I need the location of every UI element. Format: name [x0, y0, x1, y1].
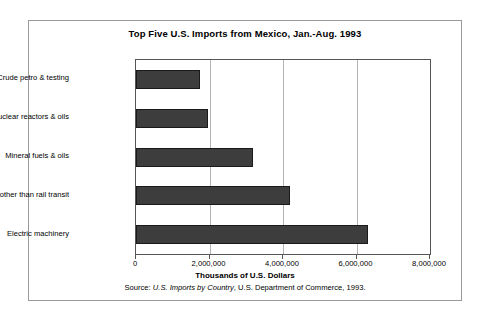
bar-fill [136, 109, 208, 128]
bar [136, 109, 208, 128]
source-suffix: , U.S. Department of Commerce, 1993. [234, 283, 366, 292]
x-tick-label: 8,000,000 [399, 259, 459, 268]
bar [136, 70, 200, 89]
plot-area [135, 59, 431, 255]
x-tick-label: 2,000,000 [179, 259, 239, 268]
bar [136, 225, 368, 244]
x-tick-mark [282, 255, 283, 259]
bar-fill [136, 148, 253, 167]
category-label: Nuclear reactors & oils [0, 112, 69, 122]
chart-title: Top Five U.S. Imports from Mexico, Jan.-… [29, 28, 461, 39]
source-publication-title: U.S. Imports by Country [153, 283, 234, 292]
category-label: Electric machinery [0, 229, 69, 239]
x-tick-mark [135, 255, 136, 259]
x-tick-label: 6,000,000 [326, 259, 386, 268]
bars-layer [136, 60, 430, 254]
x-tick-mark [429, 255, 430, 259]
chart-card: Top Five U.S. Imports from Mexico, Jan.-… [28, 20, 462, 301]
x-tick-mark [356, 255, 357, 259]
category-label: Vehicles other than rail transit [0, 190, 69, 200]
source-prefix: Source: [125, 283, 153, 292]
bar-fill [136, 70, 200, 89]
x-tick-label: 4,000,000 [252, 259, 312, 268]
bar [136, 186, 290, 205]
bar-fill [136, 225, 368, 244]
bar [136, 148, 253, 167]
x-tick-label: 0 [105, 259, 165, 268]
x-tick-mark [209, 255, 210, 259]
x-axis-title: Thousands of U.S. Dollars [29, 271, 461, 280]
category-label: Mineral fuels & oils [0, 151, 69, 161]
source-note: Source: U.S. Imports by Country, U.S. De… [29, 283, 461, 292]
bar-fill [136, 186, 290, 205]
category-label: Crude petro & testing [0, 73, 69, 83]
